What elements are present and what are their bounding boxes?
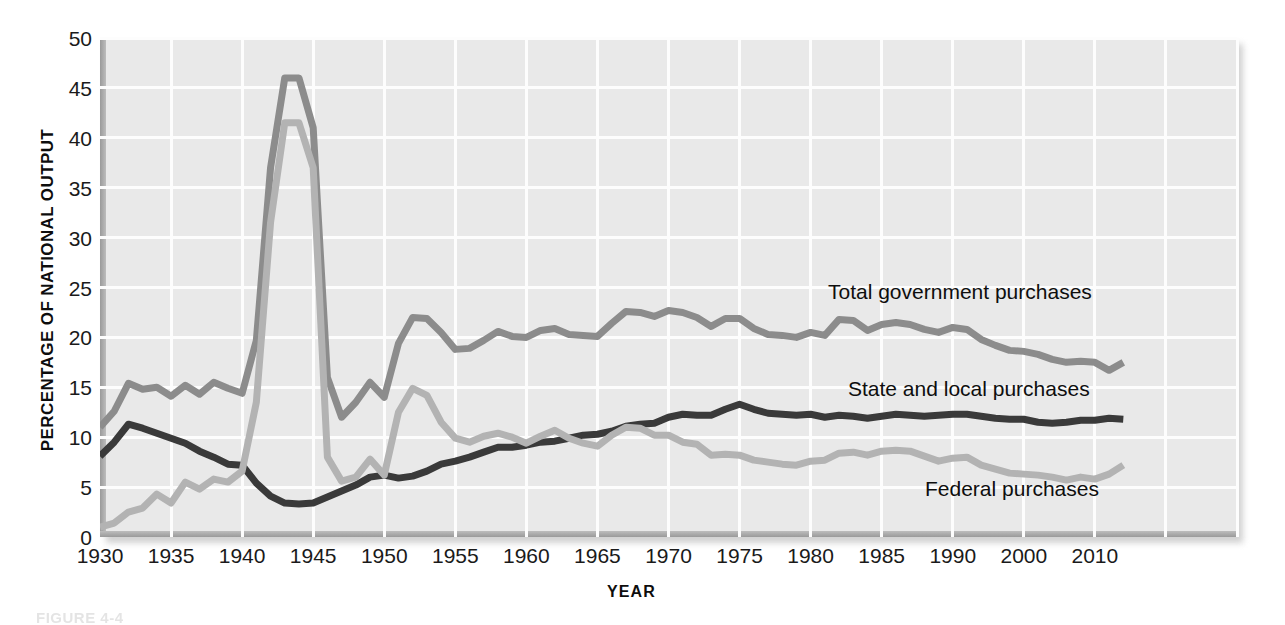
y-axis-tick-label: 30 [48,228,92,249]
figure-government-purchases: PERCENTAGE OF NATIONAL OUTPUT 5045403530… [0,0,1285,625]
annotation-state-and-local: State and local purchases [848,378,1090,399]
y-axis-ticks: 50454035302520151050 [40,0,92,625]
y-axis-tick-label: 40 [48,128,92,149]
y-axis-tick-label: 35 [48,178,92,199]
y-axis-tick-label: 20 [48,327,92,348]
x-axis-title: YEAR [607,583,656,601]
annotation-federal: Federal purchases [925,478,1099,499]
x-axis-title-wrap: YEAR [0,583,1285,601]
y-axis-tick-label: 10 [48,427,92,448]
y-axis-tick-label: 50 [48,28,92,49]
annotation-total-government: Total government purchases [828,281,1092,302]
y-axis-tick-label: 25 [48,278,92,299]
y-axis-tick-label: 15 [48,377,92,398]
figure-caption: FIGURE 4-4 [36,609,124,625]
y-axis-tick-label: 5 [48,477,92,498]
x-axis-ticks: 1930193519401945195019551960196519701975… [0,545,1285,575]
y-axis-tick-label: 45 [48,78,92,99]
series-line [100,78,1123,427]
x-axis-tick-label: 2010 [1050,545,1140,566]
